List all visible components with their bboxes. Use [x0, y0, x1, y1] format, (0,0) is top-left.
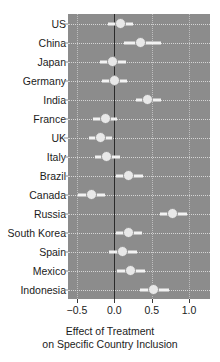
y-axis-tick-mark: [64, 194, 68, 195]
y-axis-tick-label: Brazil: [0, 170, 66, 181]
data-point: [167, 208, 178, 219]
horizontal-gridline: [68, 157, 210, 158]
x-axis-title: Effect of Treatment on Specific Country …: [0, 325, 220, 351]
y-axis-tick-label: France: [0, 113, 66, 124]
y-axis-tick-label: Spain: [0, 246, 66, 257]
y-axis-tick-mark: [64, 42, 68, 43]
y-axis-tick-label: Canada: [0, 189, 66, 200]
y-axis-tick-mark: [64, 175, 68, 176]
horizontal-gridline: [68, 24, 210, 25]
x-axis-title-line2: on Specific Country Inclusion: [0, 338, 220, 351]
y-axis-tick-label: Germany: [0, 75, 66, 86]
y-axis-tick-label: Mexico: [0, 265, 66, 276]
horizontal-gridline: [68, 214, 210, 215]
y-axis-tick-mark: [64, 137, 68, 138]
dot-and-whisker-chart: USChinaJapanGermanyIndiaFranceUKItalyBra…: [0, 0, 220, 362]
plot-panel: [68, 14, 210, 299]
y-axis-tick-label: Russia: [0, 208, 66, 219]
y-axis-tick-label: UK: [0, 132, 66, 143]
y-axis-tick-mark: [64, 80, 68, 81]
horizontal-gridline: [68, 81, 210, 82]
y-axis-tick-label: Italy: [0, 151, 66, 162]
x-axis-tick-mark: [152, 299, 153, 303]
data-point: [148, 284, 159, 295]
x-axis-tick-mark: [114, 299, 115, 303]
data-point: [95, 132, 106, 143]
data-point: [101, 151, 112, 162]
horizontal-gridline: [68, 252, 210, 253]
y-axis-tick-mark: [64, 232, 68, 233]
data-point: [123, 227, 134, 238]
x-axis-tick-label: 1.0: [164, 304, 214, 316]
y-axis-tick-label: China: [0, 37, 66, 48]
horizontal-gridline: [68, 119, 210, 120]
data-point: [109, 75, 120, 86]
data-point: [100, 113, 111, 124]
horizontal-gridline: [68, 62, 210, 63]
y-axis-tick-label: Japan: [0, 56, 66, 67]
y-axis-tick-mark: [64, 270, 68, 271]
horizontal-gridline: [68, 290, 210, 291]
data-point: [125, 265, 136, 276]
y-axis-tick-label: Indonesia: [0, 284, 66, 295]
data-point: [123, 170, 134, 181]
data-point: [117, 246, 128, 257]
y-axis-tick-mark: [64, 61, 68, 62]
y-axis-tick-label: India: [0, 94, 66, 105]
y-axis-tick-label: US: [0, 18, 66, 29]
data-point: [86, 189, 97, 200]
y-axis-tick-mark: [64, 99, 68, 100]
y-axis-tick-mark: [64, 118, 68, 119]
data-point: [107, 56, 118, 67]
y-axis-tick-mark: [64, 251, 68, 252]
y-axis-tick-mark: [64, 213, 68, 214]
y-axis-tick-mark: [64, 289, 68, 290]
y-axis-tick-label: South Korea: [0, 227, 66, 238]
data-point: [135, 37, 146, 48]
x-axis-tick-mark: [77, 299, 78, 303]
y-axis-tick-mark: [64, 23, 68, 24]
data-point: [115, 18, 126, 29]
x-axis-title-line1: Effect of Treatment: [0, 325, 220, 338]
y-axis-tick-mark: [64, 156, 68, 157]
x-axis-tick-mark: [189, 299, 190, 303]
